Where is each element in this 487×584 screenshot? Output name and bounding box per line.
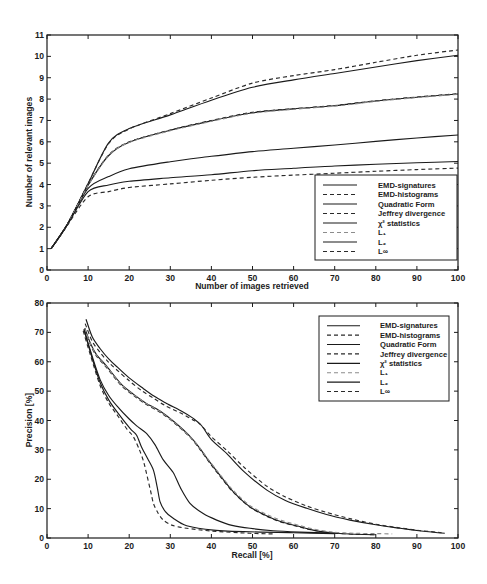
legend-label: Quadratic Form: [378, 200, 435, 209]
legend-label: χ² statistics: [380, 359, 422, 368]
legend-label: Jeffrey divergence: [378, 209, 445, 218]
x-tick-label: 80: [371, 541, 381, 551]
x-tick-label: 0: [45, 273, 50, 283]
y-axis-title: Number of relevant images: [24, 97, 34, 208]
y-axis-title: Precision [%]: [24, 393, 34, 448]
legend-label: EMD-histograms: [380, 331, 440, 340]
y-tick-label: 3: [39, 201, 44, 211]
y-tick-label: 60: [34, 357, 44, 367]
x-tick-label: 40: [207, 273, 217, 283]
x-axis-title: Number of images retrieved: [195, 281, 309, 291]
x-tick-label: 20: [124, 273, 134, 283]
y-tick-label: 6: [39, 137, 44, 147]
x-tick-label: 20: [124, 541, 134, 551]
legend-label: L₂: [380, 378, 388, 387]
legend-label: EMD-signatures: [378, 181, 436, 190]
y-tick-label: 11: [35, 30, 44, 40]
y-tick-label: 5: [39, 158, 44, 168]
legend: EMD-signaturesEMD-histogramsQuadratic Fo…: [315, 175, 457, 260]
y-tick-label: 9: [39, 73, 44, 83]
x-tick-label: 90: [412, 541, 422, 551]
x-tick-label: 10: [83, 541, 93, 551]
x-tick-label: 70: [330, 273, 340, 283]
y-tick-label: 40: [34, 416, 44, 426]
x-tick-label: 100: [451, 541, 466, 551]
y-tick-label: 50: [34, 386, 44, 396]
y-tick-label: 1: [39, 244, 44, 254]
legend-label: χ² statistics: [378, 219, 420, 228]
x-tick-label: 40: [207, 541, 217, 551]
y-tick-label: 30: [34, 445, 44, 455]
legend-label: EMD-histograms: [378, 190, 438, 199]
y-tick-label: 0: [39, 533, 44, 543]
x-tick-label: 50: [248, 541, 258, 551]
y-tick-label: 7: [39, 115, 44, 125]
y-tick-label: 10: [34, 51, 44, 61]
x-tick-label: 70: [330, 541, 340, 551]
x-tick-label: 30: [166, 273, 176, 283]
x-tick-label: 60: [289, 273, 299, 283]
x-tick-label: 10: [83, 273, 93, 283]
y-tick-label: 80: [34, 298, 44, 308]
series-line-l2: [84, 329, 335, 533]
legend-label: L₁: [378, 228, 386, 237]
x-tick-label: 0: [45, 541, 50, 551]
y-tick-label: 70: [34, 327, 44, 337]
figure: Number of images retrieved Number of rel…: [0, 0, 487, 584]
x-tick-label: 50: [248, 273, 258, 283]
y-tick-label: 8: [39, 94, 44, 104]
x-tick-label: 100: [451, 273, 466, 283]
x-tick-label: 30: [166, 541, 176, 551]
x-tick-label: 80: [371, 273, 381, 283]
x-axis-title: Recall [%]: [231, 550, 272, 560]
x-tick-label: 90: [412, 273, 422, 283]
legend-label: Jeffrey divergence: [380, 350, 447, 359]
y-tick-label: 10: [34, 504, 44, 514]
legend-label: Quadratic Form: [380, 340, 437, 349]
x-tick-label: 60: [289, 541, 299, 551]
y-tick-label: 20: [34, 474, 44, 484]
y-tick-label: 0: [39, 265, 44, 275]
legend-label: L₁: [380, 368, 388, 377]
legend-label: EMD-signatures: [380, 321, 438, 330]
chart-precision-vs-recall: Recall [%] Precision [%] 010203040506070…: [24, 298, 465, 560]
legend-label: L∞: [378, 247, 388, 256]
legend-label: L∞: [380, 387, 390, 396]
y-tick-label: 2: [39, 222, 44, 232]
chart-relevant-images-vs-retrieved: Number of images retrieved Number of rel…: [24, 30, 465, 291]
legend: EMD-signaturesEMD-histogramsQuadratic Fo…: [319, 316, 449, 401]
legend-label: L₂: [378, 238, 386, 247]
y-tick-label: 4: [39, 180, 44, 190]
